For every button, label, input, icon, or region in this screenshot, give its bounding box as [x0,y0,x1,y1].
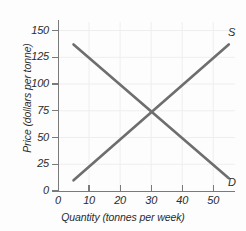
supply-curve-label: S [228,26,235,38]
y-tick [52,30,59,31]
x-tick-label: 30 [138,194,164,206]
x-tick-label: 0 [45,194,71,206]
y-tick [52,190,59,191]
y-tick [52,137,59,138]
y-axis-title: Price (dollars per tonne) [21,13,33,183]
x-tick-label: 50 [200,194,226,206]
plot-area [58,22,235,191]
x-tick-label: 10 [76,194,102,206]
chart-figure: 025507510012515001020304050 Quantity (to… [0,0,246,231]
x-tick [88,185,89,191]
x-tick [182,185,183,191]
y-tick [52,110,59,111]
x-axis-line [57,191,235,192]
x-tick [213,185,214,191]
demand-curve-label: D [228,176,236,188]
y-axis-line [58,20,59,192]
curve-layer [58,22,235,191]
x-tick-label: 40 [169,194,195,206]
y-tick [52,57,59,58]
x-axis-title: Quantity (tonnes per week) [0,211,246,223]
y-tick [52,164,59,165]
x-tick [120,185,121,191]
x-tick-label: 20 [107,194,133,206]
y-tick [52,83,59,84]
x-tick [151,185,152,191]
